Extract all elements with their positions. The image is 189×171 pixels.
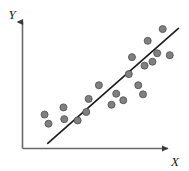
scatter-point (45, 120, 52, 127)
scatter-point (61, 116, 68, 123)
scatter-plot-figure: Y X (0, 0, 189, 171)
data-points-layer (41, 26, 173, 128)
scatter-point (135, 82, 142, 89)
scatter-point (108, 101, 115, 108)
x-axis-label: X (170, 154, 180, 169)
scatter-point (125, 71, 132, 78)
scatter-point (144, 37, 151, 44)
scatter-point (166, 52, 173, 59)
scatter-point (120, 97, 127, 104)
scatter-point (159, 26, 166, 33)
scatter-point (149, 58, 156, 65)
scatter-point (60, 104, 67, 111)
trendline-group (48, 28, 179, 143)
scatter-point (83, 108, 90, 115)
scatter-point (41, 111, 48, 118)
scatter-point (128, 54, 135, 61)
scatter-point (113, 90, 120, 97)
scatter-point (95, 82, 102, 89)
scatter-point (139, 91, 146, 98)
scatter-point (141, 62, 148, 69)
scatter-point (74, 117, 81, 124)
scatter-point (85, 95, 92, 102)
scatter-point (154, 50, 161, 57)
regression-trendline (48, 28, 179, 143)
plot-canvas: Y X (0, 0, 189, 171)
y-axis-label: Y (8, 7, 17, 22)
